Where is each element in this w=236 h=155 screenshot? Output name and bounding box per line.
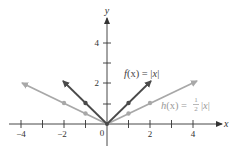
- y-tick-label: 2: [95, 78, 100, 88]
- x-tick-label: 2: [148, 129, 153, 139]
- data-point: [148, 101, 152, 105]
- y-tick-label: 4: [95, 38, 100, 48]
- data-point: [126, 111, 130, 115]
- h-label: h(x) = 1 2 |x|: [161, 96, 210, 113]
- origin-label: 0: [100, 128, 105, 138]
- data-point: [126, 101, 130, 105]
- x-tick-label: −4: [16, 129, 26, 139]
- data-point: [83, 101, 87, 105]
- x-axis: x −4 −2 0 2 4: [9, 118, 229, 139]
- absolute-value-chart: x −4 −2 0 2 4 y 2 4 f(x) =: [0, 0, 236, 155]
- svg-text:1: 1: [194, 96, 198, 104]
- x-tick-label: 4: [191, 129, 196, 139]
- y-axis-label: y: [104, 5, 110, 16]
- origin-point: [105, 122, 109, 126]
- svg-text:|x|: |x|: [201, 100, 210, 111]
- svg-text:2: 2: [194, 105, 198, 113]
- svg-text:h(x) =: h(x) =: [161, 100, 187, 112]
- data-point: [62, 101, 66, 105]
- x-tick-label: −2: [57, 129, 67, 139]
- f-label: f(x) = |x|: [124, 68, 159, 80]
- data-point: [83, 111, 87, 115]
- x-axis-label: x: [223, 118, 229, 129]
